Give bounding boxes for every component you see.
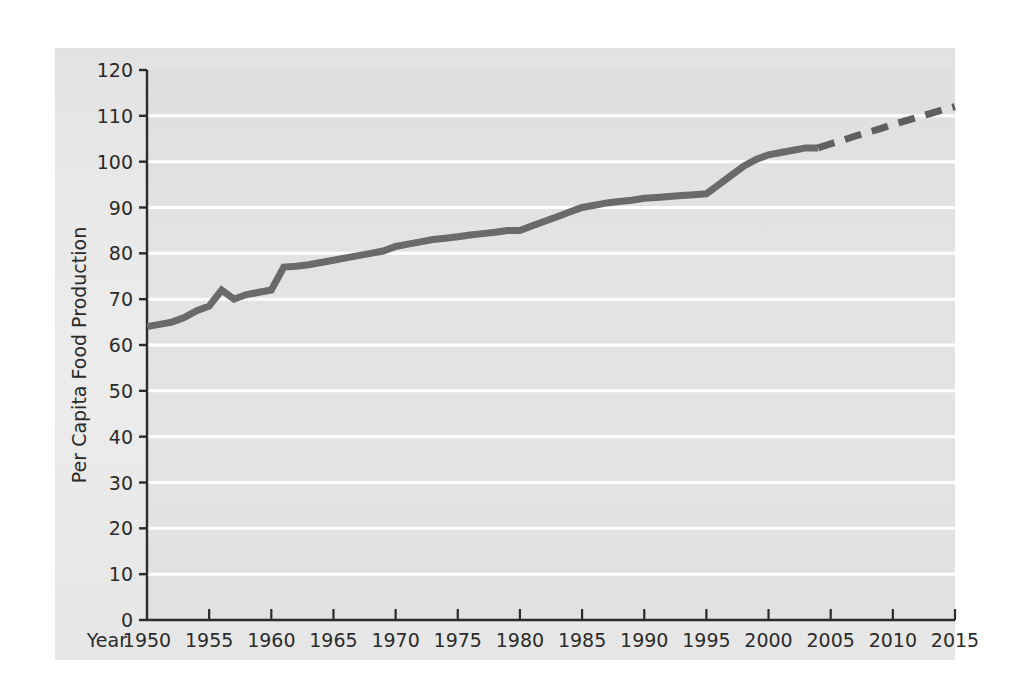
y-tick-label: 10 — [109, 563, 133, 585]
y-tick-label: 30 — [109, 472, 133, 494]
x-tick-label: 1995 — [682, 629, 730, 651]
x-tick-label: 2005 — [807, 629, 855, 651]
y-tick-label: 50 — [109, 380, 133, 402]
y-tick-label: 80 — [109, 242, 133, 264]
x-tick-label: 2015 — [931, 629, 979, 651]
x-tick-label: 1960 — [247, 629, 295, 651]
figure-container: 0102030405060708090100110120195019551960… — [0, 0, 1025, 699]
x-tick-label: 1990 — [620, 629, 668, 651]
y-axis-title: Per Capita Food Production — [68, 227, 90, 483]
x-tick-label: 1985 — [558, 629, 606, 651]
y-axis-ticks: 0102030405060708090100110120 — [97, 59, 147, 631]
y-tick-label: 20 — [109, 517, 133, 539]
x-tick-label: 1950 — [123, 629, 171, 651]
y-tick-label: 60 — [109, 334, 133, 356]
y-tick-label: 70 — [109, 288, 133, 310]
x-tick-label: 2010 — [869, 629, 917, 651]
x-tick-label: 1965 — [309, 629, 357, 651]
x-tick-label: 2000 — [744, 629, 792, 651]
y-tick-label: 120 — [97, 59, 133, 81]
x-tick-label: 1980 — [496, 629, 544, 651]
x-tick-label: 1955 — [185, 629, 233, 651]
line-chart: 0102030405060708090100110120195019551960… — [0, 0, 1025, 699]
x-tick-label: 1970 — [371, 629, 419, 651]
y-tick-label: 90 — [109, 197, 133, 219]
y-tick-label: 0 — [121, 609, 133, 631]
y-tick-label: 40 — [109, 426, 133, 448]
y-tick-label: 100 — [97, 151, 133, 173]
x-axis-title: Year — [86, 629, 127, 651]
x-tick-label: 1975 — [434, 629, 482, 651]
y-tick-label: 110 — [97, 105, 133, 127]
